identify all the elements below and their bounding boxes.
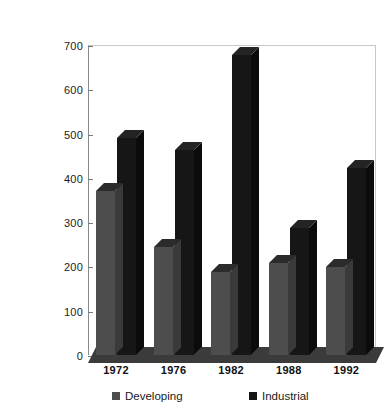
- x-axis-label: 1976: [161, 364, 187, 376]
- y-axis-tick: 100: [64, 306, 89, 318]
- bar-developing-1988: [269, 263, 288, 355]
- bar-front-face: [154, 247, 173, 356]
- legend-swatch-icon: [249, 392, 257, 400]
- y-axis-tick: 700: [64, 40, 89, 52]
- bars-layer: [88, 45, 384, 355]
- bar-front-face: [269, 263, 288, 355]
- y-axis-tick: 200: [64, 261, 89, 273]
- x-axis-label: 1988: [276, 364, 302, 376]
- y-axis-tick: 500: [64, 129, 89, 141]
- x-axis: 19721976198219881992: [88, 364, 384, 384]
- legend-label: Developing: [125, 390, 183, 402]
- legend-entry-industrial[interactable]: Industrial: [249, 390, 309, 402]
- bar-developing-1972: [96, 191, 115, 355]
- legend-label: Industrial: [262, 390, 309, 402]
- x-axis-label: 1972: [103, 364, 129, 376]
- bar-developing-1992: [326, 267, 345, 355]
- bar-developing-1976: [154, 247, 173, 356]
- x-axis-label: 1982: [218, 364, 244, 376]
- bar-developing-1982: [211, 272, 230, 355]
- legend-entry-developing[interactable]: Developing: [112, 390, 183, 402]
- bar-front-face: [96, 191, 115, 355]
- chart-legend: DevelopingIndustrial: [0, 390, 388, 408]
- y-tick-mark: [88, 356, 93, 357]
- legend-swatch-icon: [112, 392, 120, 400]
- y-axis-tick: 400: [64, 173, 89, 185]
- x-axis-label: 1992: [334, 364, 360, 376]
- bar-front-face: [211, 272, 230, 355]
- y-axis-tick: 600: [64, 84, 89, 96]
- bar-front-face: [326, 267, 345, 355]
- y-axis-tick: 300: [64, 217, 89, 229]
- bar-chart: 0100200300400500600700 19721976198219881…: [0, 0, 388, 408]
